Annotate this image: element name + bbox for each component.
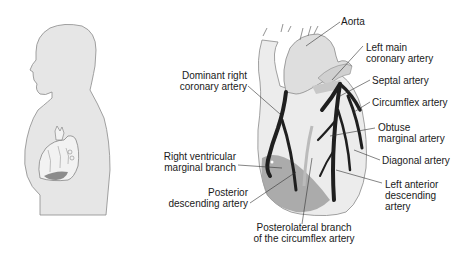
label-line: Posterior [150,187,248,198]
label-line: coronary artery [165,81,247,92]
label-septal-artery: Septal artery [372,75,429,86]
label-line: Posterolateral branch [240,222,368,233]
label-posterior-descending-artery: Posterior descending artery [150,187,248,209]
label-line: artery [385,201,438,212]
label-diagonal-artery: Diagonal artery [382,155,450,166]
label-line: Left main [366,42,433,53]
label-line: coronary artery [366,53,433,64]
label-aorta: Aorta [341,16,365,27]
label-left-main-coronary-artery: Left main coronary artery [366,42,433,64]
torso-silhouette-icon [25,24,110,215]
label-right-ventricular-marginal-branch: Right ventricular marginal branch [150,151,236,173]
label-line: Dominant right [165,70,247,81]
label-line: marginal branch [150,162,236,173]
label-left-anterior-descending-artery: Left anterior descending artery [385,179,438,212]
label-line: Left anterior [385,179,438,190]
label-posterolateral-branch-circumflex: Posterolateral branch of the circumflex … [240,222,368,244]
label-line: marginal artery [378,133,445,144]
label-line: descending artery [150,198,248,209]
label-obtuse-marginal-artery: Obtuse marginal artery [378,122,445,144]
label-circumflex-artery: Circumflex artery [372,97,448,108]
label-dominant-right-coronary-artery: Dominant right coronary artery [165,70,247,92]
label-line: Obtuse [378,122,445,133]
coronary-artery-diagram: Aorta Left main coronary artery Septal a… [0,0,471,259]
label-line: Right ventricular [150,151,236,162]
label-line: of the circumflex artery [240,233,368,244]
label-line: descending [385,190,438,201]
